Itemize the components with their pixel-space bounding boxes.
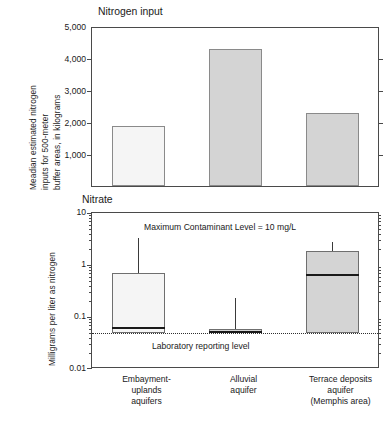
boxplot-terrace-deposits-aquifer (306, 213, 359, 367)
bottom-minor-tick (378, 344, 381, 345)
bottom-ytick-0.1: 0.1 (24, 311, 86, 321)
catlbl-line: aquifers (85, 396, 208, 407)
bottom-tick-left-10 (87, 213, 92, 214)
bottom-minor-tick (378, 221, 381, 222)
bottom-minor-tick (378, 225, 381, 226)
catlbl-line: Terrace deposits (279, 374, 383, 385)
bottom-minor-tick (89, 281, 92, 282)
bottom-minor-tick (378, 322, 381, 323)
whisker-upper-1 (138, 238, 139, 273)
bottom-minor-tick (89, 273, 92, 274)
bottom-minor-tick (378, 301, 381, 302)
bottom-minor-tick (378, 329, 381, 330)
whisker-upper-2 (235, 298, 236, 329)
bottom-minor-tick (89, 218, 92, 219)
top-ytick-2000: 2,000 (24, 118, 86, 128)
bar-embayment-uplands-aquifers (112, 126, 165, 186)
top-ytick-5000: 5,000 (24, 22, 86, 32)
bottom-minor-tick (378, 319, 381, 320)
bottom-minor-tick (378, 218, 381, 219)
bottom-tick-left-0.1 (87, 317, 92, 318)
top-tick-left-4000 (87, 59, 92, 60)
bottom-ytick-10: 10 (24, 207, 86, 217)
bottom-tick-left-1 (87, 265, 92, 266)
bottom-minor-tick (378, 270, 381, 271)
top-ylabel-line-3: buffer areas, in kilograms (52, 94, 62, 190)
bottom-ytick-0.01: 0.01 (24, 363, 86, 373)
top-ytick-1000: 1,000 (24, 150, 86, 160)
bottom-minor-tick (89, 286, 92, 287)
median-3 (306, 274, 359, 276)
median-1 (112, 327, 165, 329)
bottom-minor-tick (378, 325, 381, 326)
bar-terrace-deposits-aquifer (306, 113, 359, 186)
top-tick-right-4000 (378, 59, 383, 60)
top-tick-right-3000 (378, 91, 383, 92)
top-tick-right-2000 (378, 123, 383, 124)
bottom-minor-tick (378, 273, 381, 274)
bottom-minor-tick (378, 353, 381, 354)
top-tick-left-1000 (87, 155, 92, 156)
bottom-minor-tick (89, 277, 92, 278)
bottom-minor-tick (378, 277, 381, 278)
bottom-minor-tick (89, 344, 92, 345)
bottom-minor-tick (89, 322, 92, 323)
bottom-minor-tick (89, 225, 92, 226)
bottom-minor-tick (89, 292, 92, 293)
bottom-minor-tick (378, 267, 381, 268)
bottom-minor-tick (378, 338, 381, 339)
bottom-minor-tick (89, 234, 92, 235)
whisker-upper-3 (332, 242, 333, 251)
bottom-minor-tick (89, 301, 92, 302)
bottom-minor-tick (89, 221, 92, 222)
box-1 (112, 273, 165, 333)
bottom-minor-tick (89, 249, 92, 250)
figure-nitrogen-nitrate: Nitrogen input Meadian estimated nitroge… (0, 0, 383, 428)
bottom-minor-tick (89, 338, 92, 339)
bottom-minor-tick (89, 229, 92, 230)
bottom-minor-tick (378, 292, 381, 293)
top-tick-left-3000 (87, 91, 92, 92)
bottom-minor-tick (378, 281, 381, 282)
top-plot-area (91, 27, 379, 187)
bottom-minor-tick (378, 286, 381, 287)
top-ytick-4000: 4,000 (24, 54, 86, 64)
bottom-minor-tick (378, 215, 381, 216)
bottom-minor-tick (378, 234, 381, 235)
top-ytick-3000: 3,000 (24, 86, 86, 96)
bottom-ytick-1: 1 (24, 259, 86, 269)
bottom-minor-tick (378, 333, 381, 334)
top-tick-right-1000 (378, 155, 383, 156)
bottom-minor-tick (378, 240, 381, 241)
top-tick-left-2000 (87, 123, 92, 124)
bar-alluvial-aquifer (209, 49, 262, 186)
bottom-minor-tick (89, 325, 92, 326)
bottom-tick-left-0.01 (87, 368, 92, 369)
boxplot-alluvial-aquifer (209, 213, 262, 367)
panel-title-nitrate: Nitrate (82, 194, 113, 205)
catlbl-line: (Memphis area) (279, 396, 383, 407)
catlbl-line: aquifer (279, 385, 383, 396)
bottom-minor-tick (89, 270, 92, 271)
bottom-plot-area: Maximum Contaminant Level = 10 mg/L Labo… (91, 212, 379, 368)
bottom-minor-tick (89, 329, 92, 330)
bottom-minor-tick (378, 229, 381, 230)
bottom-minor-tick (89, 353, 92, 354)
top-ylabel-line-1: Meadian estimated nitrogen (28, 85, 38, 190)
panel-title-nitrogen-input: Nitrogen input (98, 6, 163, 17)
box-3 (306, 251, 359, 333)
bottom-ylabel: Milligrams per liter as nitrogen (47, 252, 57, 366)
bottom-minor-tick (89, 240, 92, 241)
boxplot-embayment-uplands-aquifers (112, 213, 165, 367)
bottom-minor-tick (378, 249, 381, 250)
bottom-minor-tick (89, 215, 92, 216)
category-label-terrace-deposits-aquifer: Terrace deposits aquifer (Memphis area) (279, 374, 383, 408)
bottom-minor-tick (89, 267, 92, 268)
median-2 (209, 331, 262, 333)
bottom-minor-tick (89, 319, 92, 320)
